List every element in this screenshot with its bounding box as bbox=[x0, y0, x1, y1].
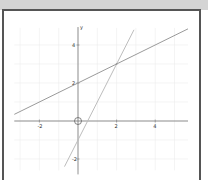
x-tick-label: -2 bbox=[37, 123, 42, 129]
line-series-2 bbox=[64, 30, 133, 167]
coordinate-plot: y-224-224 bbox=[0, 0, 208, 180]
x-tick-label: 2 bbox=[115, 123, 118, 129]
line-series-1 bbox=[14, 29, 188, 115]
x-tick-label: 4 bbox=[153, 123, 156, 129]
y-tick-label: 4 bbox=[72, 42, 75, 48]
y-tick-label: -2 bbox=[72, 156, 77, 162]
y-axis-label: y bbox=[80, 24, 83, 31]
intersection-point bbox=[116, 63, 118, 65]
